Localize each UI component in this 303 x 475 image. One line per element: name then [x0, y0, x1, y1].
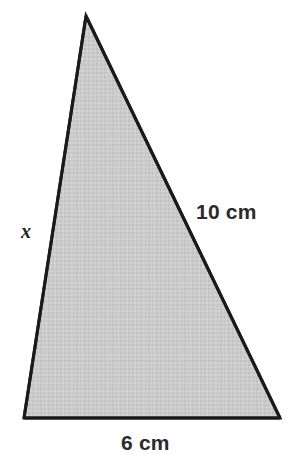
triangle-figure [0, 0, 303, 475]
figure-canvas: x 10 cm 6 cm [0, 0, 303, 475]
side-label-6cm: 6 cm [121, 432, 170, 453]
side-label-10cm: 10 cm [196, 201, 257, 222]
side-label-x: x [21, 221, 31, 241]
